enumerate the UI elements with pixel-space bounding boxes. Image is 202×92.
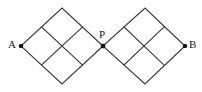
vertex-dot-b — [183, 44, 187, 48]
vertex-label-b: B — [189, 39, 196, 50]
vertex-dot-a — [19, 44, 23, 48]
vertex-label-a: A — [8, 39, 16, 50]
lattice-figure: A P B — [0, 0, 202, 92]
vertex-dot-p — [101, 44, 105, 48]
lattice-diagram-svg — [0, 0, 202, 92]
vertex-label-p: P — [99, 29, 105, 40]
